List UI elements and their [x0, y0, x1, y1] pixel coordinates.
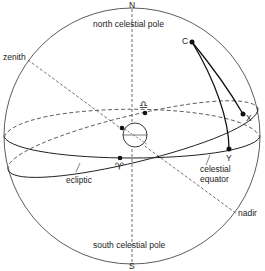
- nadir-label: nadir: [238, 208, 257, 218]
- south-celestial-pole-label: south celestial pole: [93, 240, 166, 250]
- north-celestial-pole-label: north celestial pole: [93, 19, 164, 29]
- vernal-equinox-point: [118, 156, 123, 161]
- point-y: [227, 147, 232, 152]
- point-y-label: Y: [226, 153, 232, 163]
- point-x: [241, 112, 246, 117]
- point-x-label: X: [246, 113, 252, 123]
- celestial-equator-label-2: equator: [200, 174, 229, 184]
- autumnal-equinox-symbol: ♎: [139, 99, 148, 110]
- point-c-label: C: [182, 36, 188, 46]
- zenith-label: zenith: [3, 52, 26, 62]
- vernal-equinox-symbol: ♈: [115, 161, 124, 172]
- arc-c-to-y: [192, 42, 229, 149]
- celestial-equator-label-1: celestial: [200, 164, 231, 174]
- ecliptic-leader: [76, 163, 80, 172]
- celestial-sphere-diagram: ♎ ♈ N north celestial pole zenith C X Y …: [0, 0, 265, 271]
- ecliptic-label: ecliptic: [66, 175, 93, 185]
- south-letter: S: [129, 261, 135, 271]
- point-c: [190, 40, 195, 45]
- autumnal-equinox-point: [143, 111, 148, 116]
- observer-point: [120, 126, 125, 131]
- arc-c-to-x: [192, 42, 243, 114]
- north-letter: N: [129, 0, 135, 10]
